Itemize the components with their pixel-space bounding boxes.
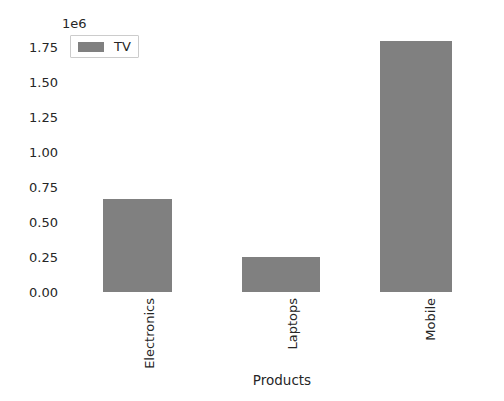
x-tick-label: Electronics	[142, 298, 157, 369]
y-axis-offset-text: 1e6	[62, 16, 87, 31]
legend-label-tv: TV	[114, 40, 131, 53]
y-tick-label: 1.00	[14, 145, 58, 160]
x-axis-title-text: Products	[253, 372, 311, 388]
legend-swatch-tv	[78, 42, 104, 52]
y-tick-label: 0.50	[14, 215, 58, 230]
bar-chart-figure: 1e6 1.75 1.50 1.25 1.00 0.75 0.50 0.25 0…	[0, 0, 504, 401]
bar-mobile	[380, 41, 452, 292]
bar-laptops	[242, 257, 320, 292]
x-tick-label: Mobile	[423, 298, 438, 341]
y-tick-label: 0.75	[14, 180, 58, 195]
plot-area	[63, 33, 493, 292]
bar-electronics	[103, 199, 172, 292]
y-tick-label: 0.25	[14, 250, 58, 265]
y-tick-label: 1.50	[14, 75, 58, 90]
y-axis-tick-labels: 1.75 1.50 1.25 1.00 0.75 0.50 0.25 0.00	[10, 0, 58, 401]
y-tick-label: 1.25	[14, 110, 58, 125]
x-tick-label: Laptops	[285, 298, 300, 350]
y-tick-label: 0.00	[14, 285, 58, 300]
y-tick-label: 1.75	[14, 40, 58, 55]
chart-legend: TV	[70, 35, 139, 58]
x-axis-title: Products	[0, 372, 504, 388]
